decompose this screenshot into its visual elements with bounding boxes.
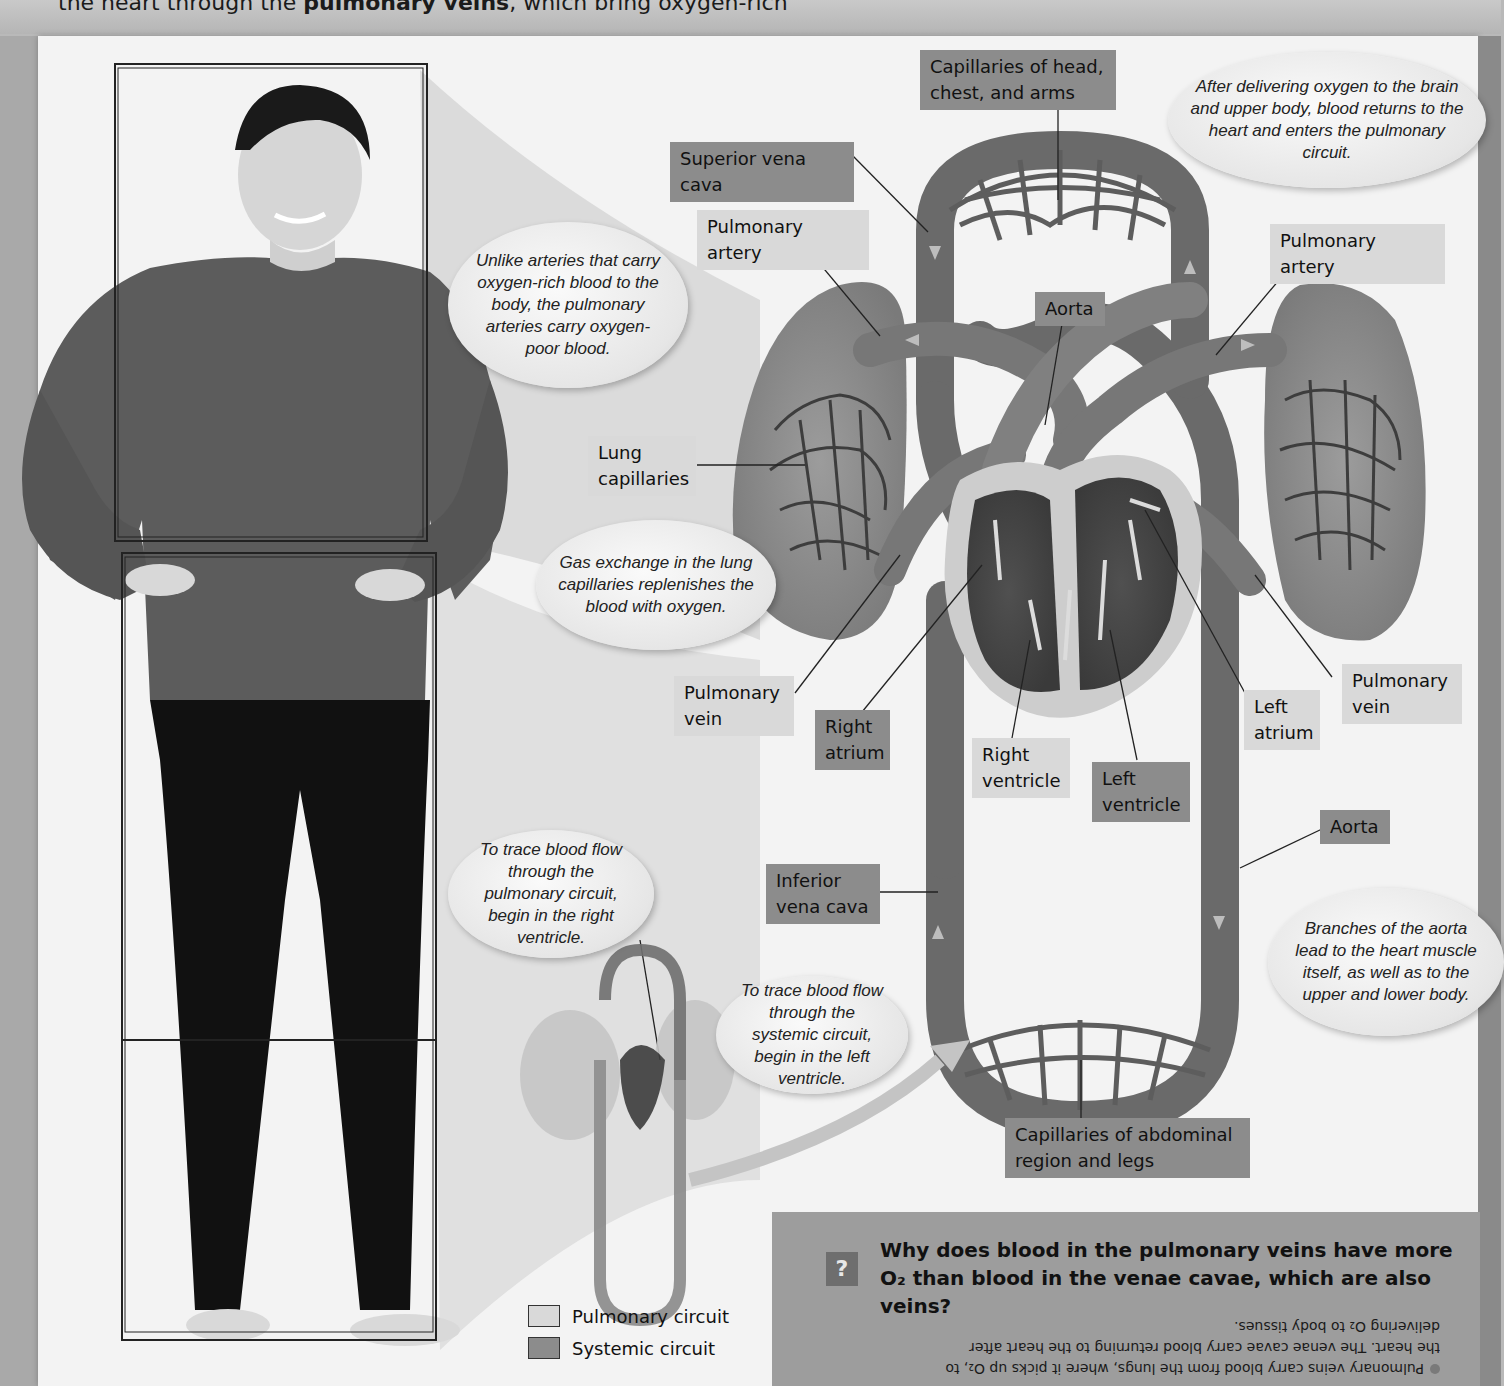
label-superior-vena-cava: Superior vena cava [670,142,854,202]
label-aorta-top: Aorta [1035,292,1105,326]
label-lung-capillaries: Lung capillaries [588,436,696,496]
label-right-ventricle: Right ventricle [972,738,1070,798]
bullet-icon [1430,1364,1440,1374]
legend: Pulmonary circuit Systemic circuit [528,1300,729,1364]
systemic-swatch-icon [528,1337,560,1359]
label-right-atrium: Right atrium [815,710,890,770]
legend-item-pulmonary: Pulmonary circuit [528,1300,729,1332]
label-left-ventricle: Left ventricle [1092,762,1190,822]
label-pulmonary-vein-left: Pulmonary vein [674,676,794,736]
callout-branches-aorta: Branches of the aorta lead to the heart … [1268,888,1504,1036]
right-lung [1264,283,1425,640]
pulmonary-swatch-icon [528,1305,560,1327]
label-inferior-vena-cava: Inferior vena cava [766,864,880,924]
label-pulmonary-artery-right: Pulmonary artery [1270,224,1445,284]
legend-item-systemic: Systemic circuit [528,1332,729,1364]
callout-gas-exchange: Gas exchange in the lung capillaries rep… [536,520,776,650]
label-capillaries-abdominal: Capillaries of abdominal region and legs [1005,1118,1250,1178]
label-aorta-bottom: Aorta [1320,810,1390,844]
question-text: Why does blood in the pulmonary veins ha… [880,1236,1460,1320]
upside-down-answer: Pulmonary veins carry blood from the lun… [920,1316,1440,1379]
heart [945,455,1202,718]
label-pulmonary-vein-right: Pulmonary vein [1342,664,1462,724]
label-capillaries-head: Capillaries of head, chest, and arms [920,50,1116,110]
callout-after-delivering: After delivering oxygen to the brain and… [1168,52,1486,188]
label-pulmonary-artery-left: Pulmonary artery [697,210,869,270]
label-left-atrium: Left atrium [1244,690,1320,750]
question-mark-icon: ? [826,1252,858,1286]
callout-trace-systemic: To trace blood flow through the systemic… [716,976,908,1094]
callout-trace-pulmonary: To trace blood flow through the pulmonar… [448,830,654,958]
callout-unlike-arteries: Unlike arteries that carry oxygen-rich b… [448,222,688,388]
